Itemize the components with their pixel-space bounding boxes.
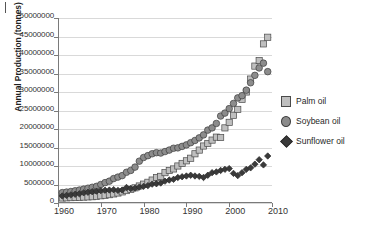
y-tick-label: 10000000 [20,159,54,168]
data-point [252,72,259,79]
legend-label: Palm oil [296,96,326,106]
data-point [226,119,232,125]
legend-item-sunflower-oil[interactable]: Sunflower oil [281,136,345,146]
y-tick-label: 40000000 [20,48,54,57]
data-point [230,112,236,118]
data-point [235,106,241,112]
x-axis-tick-labels: 196019701980199020002010 [44,206,286,226]
circle-marker-icon [281,116,291,126]
data-point [243,87,250,94]
legend-label: Sunflower oil [296,136,345,146]
data-point [256,157,262,163]
y-tick-label: 15000000 [20,141,54,150]
data-point [260,162,266,168]
data-point [260,60,267,67]
data-point [218,134,224,140]
legend-swatch [280,135,293,148]
chart-legend: Palm oilSoybean oilSunflower oil [281,96,345,146]
y-axis-tick-labels: 0500000010000000150000002000000025000000… [2,11,54,196]
x-tick-label: 1970 [87,206,127,216]
y-tick-label: 30000000 [20,85,54,94]
data-point [265,34,271,40]
legend-label: Soybean oil [296,116,340,126]
y-tick-label: 20000000 [20,122,54,131]
data-point [132,164,139,171]
plot-area: 0500000010000000150000002000000025000000… [58,18,272,203]
data-point [247,79,254,86]
y-tick-label: 45000000 [20,30,54,39]
square-marker-icon [281,96,291,106]
legend-swatch [281,96,291,107]
x-tick-label: 1960 [44,206,84,216]
diamond-marker-icon [281,136,291,146]
y-tick-label: 25000000 [20,104,54,113]
production-chart: Annual Production (tonnes) 0500000010000… [0,0,370,236]
x-tick-label: 1990 [172,206,212,216]
data-point [264,68,271,75]
data-series-layer [58,18,272,203]
legend-swatch [281,116,291,127]
x-tick-label: 2000 [215,206,255,216]
data-point [230,100,237,107]
x-tick-label: 2010 [258,206,298,216]
legend-item-soybean-oil[interactable]: Soybean oil [281,116,345,126]
y-tick-label: 50000000 [20,11,54,20]
data-point [213,120,220,127]
data-point [260,41,266,47]
legend-item-palm-oil[interactable]: Palm oil [281,96,345,106]
data-point [265,153,271,159]
data-point [239,92,246,99]
gridline [58,203,272,204]
y-tick-label: 5000000 [24,178,54,187]
x-tick-label: 1980 [130,206,170,216]
y-tick-label: 35000000 [20,67,54,76]
